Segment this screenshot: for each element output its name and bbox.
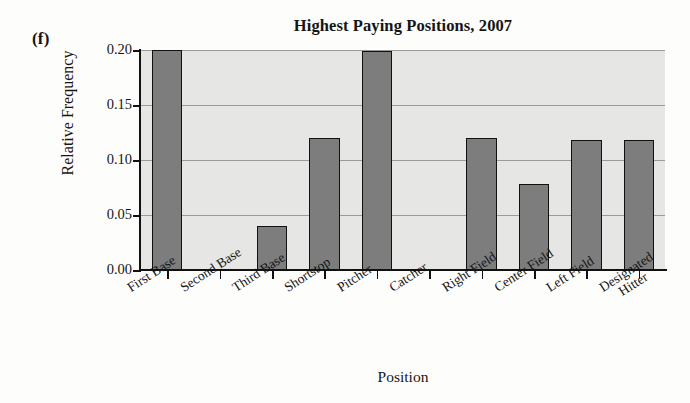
y-tick-mark [133,50,141,52]
y-tick-label: 0.05 [78,206,132,223]
figure-panel: (f) Highest Paying Positions, 2007 Relat… [0,0,690,403]
y-tick-mark [133,160,141,162]
y-tick-label: 0.15 [78,96,132,113]
y-tick-label: 0.10 [78,151,132,168]
x-tick-mark [377,271,379,279]
y-axis-ticks: 0.000.050.100.150.20 [0,0,690,403]
y-tick-label: 0.00 [78,261,132,278]
x-axis-title: Position [141,368,665,386]
y-tick-label: 0.20 [78,41,132,58]
y-tick-mark [133,215,141,217]
y-tick-mark [133,105,141,107]
